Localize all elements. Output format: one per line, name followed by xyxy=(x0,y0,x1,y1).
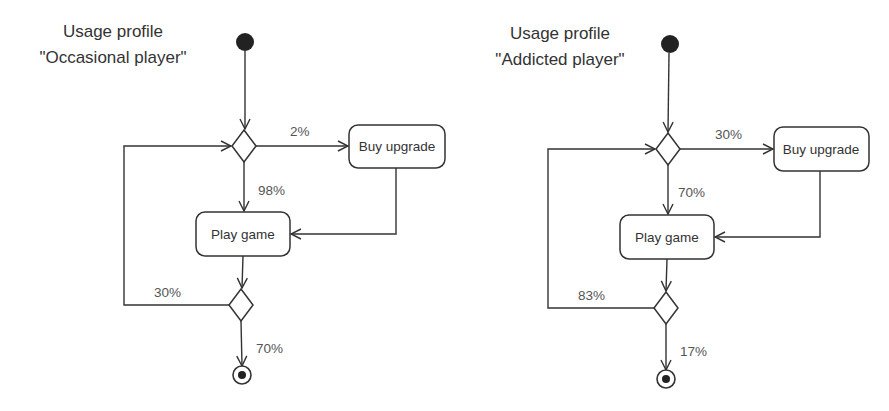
activity-diagrams: Usage profile "Occasional player" 2% Buy… xyxy=(0,0,889,411)
edge-label-end: 70% xyxy=(256,341,283,356)
edge-buy-upgrade-to-play-game xyxy=(715,171,820,237)
action-play-game-label: Play game xyxy=(211,227,275,242)
action-buy-upgrade-label: Buy upgrade xyxy=(359,139,436,154)
edge-label-end: 17% xyxy=(680,344,707,359)
edge-buy-upgrade-to-play-game xyxy=(291,168,396,234)
edge-label-loop-back: 83% xyxy=(578,288,605,303)
edge-start-to-decision xyxy=(668,53,669,132)
edge-label-play-game: 98% xyxy=(258,183,285,198)
final-node-icon xyxy=(233,366,251,384)
diagram-title-line1: Usage profile xyxy=(510,24,610,43)
final-node-icon xyxy=(657,370,675,388)
diagram-occasional-player: Usage profile "Occasional player" 2% Buy… xyxy=(39,22,445,384)
edge-label-loop-back: 30% xyxy=(154,285,181,300)
diagram-title-line2: "Addicted player" xyxy=(495,50,624,69)
edge-play-game-to-decision xyxy=(242,256,243,288)
diagram-title-line2: "Occasional player" xyxy=(39,48,186,67)
edge-play-game-to-decision xyxy=(666,259,667,291)
edge-label-play-game: 70% xyxy=(678,185,705,200)
decision-node-icon xyxy=(656,133,680,165)
edge-label-buy-upgrade: 30% xyxy=(715,127,742,142)
decision-node-icon xyxy=(232,130,256,162)
edge-label-buy-upgrade: 2% xyxy=(290,124,310,139)
decision-node-icon xyxy=(229,289,253,321)
edge-to-end xyxy=(241,321,242,366)
initial-node-icon xyxy=(236,33,254,51)
diagram-addicted-player: Usage profile "Addicted player" 30% Buy … xyxy=(495,24,869,388)
decision-node-icon xyxy=(654,292,678,324)
diagram-title-line1: Usage profile xyxy=(63,22,163,41)
action-play-game-label: Play game xyxy=(635,230,699,245)
initial-node-icon xyxy=(661,35,679,53)
action-buy-upgrade-label: Buy upgrade xyxy=(783,142,860,157)
